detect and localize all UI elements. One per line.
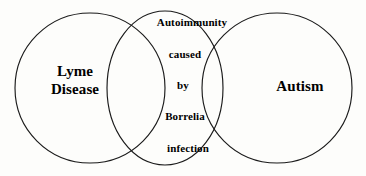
venn-diagram-figure: Lyme Disease Autism Autoimmunity caused … bbox=[0, 0, 366, 176]
venn-label-autism: Autism bbox=[248, 78, 352, 96]
venn-intersection-line-by: by bbox=[123, 79, 243, 92]
venn-intersection-line-borrelia: Borrelia bbox=[125, 110, 245, 123]
venn-intersection-line-caused: caused bbox=[125, 48, 245, 61]
venn-label-lyme-disease: Lyme Disease bbox=[20, 62, 130, 99]
venn-label-layer: Lyme Disease Autism Autoimmunity caused … bbox=[0, 0, 366, 176]
venn-intersection-line-infection: infection bbox=[128, 142, 248, 155]
venn-intersection-line-autoimmunity: Autoimmunity bbox=[132, 16, 252, 29]
venn-label-lyme-disease-line2: Disease bbox=[20, 80, 130, 98]
venn-label-lyme-disease-line1: Lyme bbox=[20, 62, 130, 80]
